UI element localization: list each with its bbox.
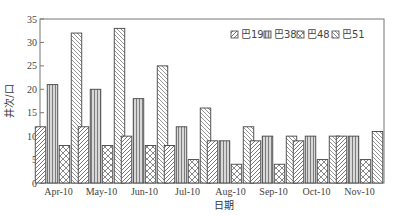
x-tick-label: Oct-10: [303, 186, 331, 197]
bar-巴38-Aug-10: [219, 141, 230, 183]
plot-area: 05101520253035井次/口Apr-10May-10Jun-10Jul-…: [3, 14, 384, 212]
bar-巴19-Apr-10: [35, 127, 46, 183]
bar-巴19-Oct-10: [293, 141, 304, 183]
legend-label: 巴38: [274, 29, 297, 40]
bar-巴19-Aug-10: [207, 141, 218, 183]
x-tick-label: Sep-10: [259, 186, 287, 197]
y-axis-label: 井次/口: [3, 84, 15, 117]
legend-label: 巴48: [307, 29, 330, 40]
bar-巴38-Nov-10: [348, 136, 359, 183]
bar-巴48-Jun-10: [145, 146, 156, 183]
bar-巴19-Jun-10: [121, 136, 132, 183]
bar-巴48-May-10: [102, 146, 113, 183]
legend-swatch: [264, 31, 271, 38]
x-tick-label: Apr-10: [44, 186, 73, 197]
bar-chart: 05101520253035井次/口Apr-10May-10Jun-10Jul-…: [0, 0, 398, 217]
bar-巴48-Apr-10: [59, 146, 70, 183]
bar-巴19-May-10: [78, 127, 89, 183]
y-tick-label: 25: [27, 60, 37, 71]
bar-巴48-Aug-10: [231, 164, 242, 183]
legend-swatch: [297, 31, 304, 38]
bar-巴38-Oct-10: [305, 136, 316, 183]
legend-label: 巴19: [241, 29, 264, 40]
bar-巴48-Nov-10: [360, 160, 371, 183]
bar-巴38-May-10: [90, 89, 101, 183]
x-axis-label: 日期: [214, 200, 234, 211]
y-tick-label: 20: [27, 84, 37, 95]
bar-巴38-Apr-10: [47, 85, 58, 183]
y-tick-label: 30: [27, 37, 37, 48]
bar-巴19-Nov-10: [336, 136, 347, 183]
bar-巴48-Jul-10: [188, 160, 199, 183]
x-tick-label: Jul-10: [175, 186, 200, 197]
y-tick-label: 35: [27, 14, 37, 25]
x-tick-label: Jun-10: [131, 186, 158, 197]
legend-swatch: [332, 31, 339, 38]
bar-巴48-Oct-10: [317, 160, 328, 183]
bar-巴38-Sep-10: [262, 136, 273, 183]
legend-swatch: [231, 31, 238, 38]
x-tick-label: May-10: [86, 186, 118, 197]
y-tick-label: 15: [27, 107, 37, 118]
bar-巴19-Sep-10: [250, 141, 261, 183]
bar-巴38-Jul-10: [176, 127, 187, 183]
legend-label: 巴51: [342, 29, 365, 40]
bar-巴48-Sep-10: [274, 164, 285, 183]
x-tick-label: Nov-10: [344, 186, 375, 197]
bar-巴19-Jul-10: [164, 146, 175, 183]
x-tick-label: Aug-10: [215, 186, 246, 197]
bar-巴38-Jun-10: [133, 99, 144, 183]
bar-巴51-Nov-10: [372, 131, 383, 183]
